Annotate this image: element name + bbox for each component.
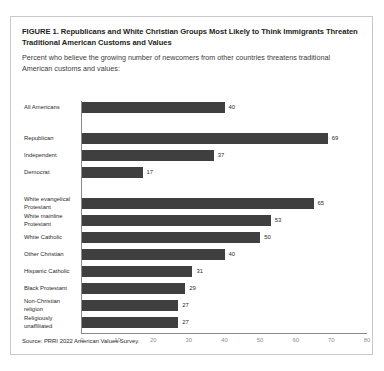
bar (82, 300, 178, 311)
bar (82, 283, 185, 294)
bar-value-label: 29 (189, 283, 196, 294)
bar-category-label: All Americans (24, 104, 79, 111)
bar-category-label: Hispanic Catholic (24, 268, 79, 275)
bar (82, 167, 143, 178)
bar-category-label: Other Christian (24, 251, 79, 258)
bar-value-label: 37 (218, 150, 225, 161)
bar-value-label: 69 (332, 133, 339, 144)
bar-row: White Catholic50 (11, 232, 372, 244)
bar (82, 215, 271, 226)
bar-value-label: 27 (182, 317, 189, 328)
bar-value-label: 27 (182, 300, 189, 311)
bar (82, 317, 178, 328)
bar-category-label: White evangelicalProtestant (24, 196, 79, 210)
bar-row: Non-Christianreligion27 (11, 300, 372, 312)
bar-category-label: Non-Christianreligion (24, 298, 79, 312)
bar-row: Black Protestant29 (11, 283, 372, 295)
x-axis-line (81, 333, 367, 334)
bar-category-label: White mainlineProtestant (24, 213, 79, 227)
bar-row: Other Christian40 (11, 249, 372, 261)
bar-value-label: 17 (147, 167, 154, 178)
bar-value-label: 40 (229, 102, 236, 113)
x-axis-tick-label: 60 (292, 336, 299, 344)
bar (82, 198, 314, 209)
bar-category-label: Independent (24, 152, 79, 159)
x-axis-tick-label: 20 (150, 336, 157, 344)
bar-row: Democrat17 (11, 167, 372, 179)
bar-category-label: White Catholic (24, 234, 79, 241)
bar (82, 249, 225, 260)
bar-category-label: Republican (24, 135, 79, 142)
bar (82, 150, 214, 161)
bar-value-label: 50 (264, 232, 271, 243)
figure-panel: FIGURE 1. Republicans and White Christia… (10, 16, 373, 355)
x-axis-tick-label: 40 (221, 336, 228, 344)
figure-header: FIGURE 1. Republicans and White Christia… (11, 17, 372, 75)
x-axis-tick-label: 70 (328, 336, 335, 344)
bar (82, 102, 225, 113)
bar-category-label: Religiouslyunaffiliated (24, 315, 79, 329)
bar-category-label: Democrat (24, 169, 79, 176)
bar-row: Hispanic Catholic31 (11, 266, 372, 278)
x-axis-tick-label: 30 (186, 336, 193, 344)
x-axis-tick-label: 80 (364, 336, 371, 344)
bar (82, 133, 328, 144)
bar-chart-plot-area: All Americans40Republican69Independent37… (11, 93, 372, 333)
figure-title: FIGURE 1. Republicans and White Christia… (22, 26, 361, 49)
bar (82, 266, 192, 277)
x-axis-tick-label: 50 (257, 336, 264, 344)
bar-row: Independent37 (11, 150, 372, 162)
bar-row: White mainlineProtestant53 (11, 215, 372, 227)
figure-subtitle: Percent who believe the growing number o… (22, 52, 361, 75)
bar-row: All Americans40 (11, 102, 372, 114)
source-note: Source: PRRI 2022 American Values Survey… (22, 338, 139, 344)
bar-value-label: 31 (196, 266, 203, 277)
bar-value-label: 65 (318, 198, 325, 209)
bar-row: Religiouslyunaffiliated27 (11, 317, 372, 329)
bar-value-label: 53 (275, 215, 282, 226)
bar-row: White evangelicalProtestant65 (11, 198, 372, 210)
bar (82, 232, 260, 243)
bar-category-label: Black Protestant (24, 285, 79, 292)
bar-row: Republican69 (11, 133, 372, 145)
bar-value-label: 40 (229, 249, 236, 260)
